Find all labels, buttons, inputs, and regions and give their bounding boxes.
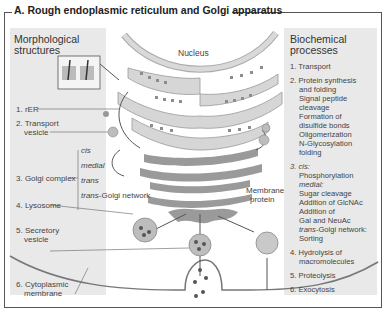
lysosome bbox=[133, 218, 157, 242]
label-trans-golgi-network: trans-Golgi network bbox=[81, 191, 150, 200]
golgi-trans bbox=[150, 180, 250, 193]
label-cis: cis bbox=[81, 146, 91, 155]
label-nucleus: Nucleus bbox=[178, 49, 209, 58]
secretory-vesicle bbox=[189, 234, 211, 256]
label-membrane-protein: Membrane bbox=[246, 186, 284, 195]
label-medial: medial bbox=[81, 161, 105, 170]
label-lysosome: 4. Lysosome bbox=[16, 201, 61, 210]
golgi-cis bbox=[144, 148, 258, 166]
biochem-heading-2: processes bbox=[290, 45, 338, 56]
golgi-medial bbox=[140, 164, 262, 182]
process-transport: 1. Transport bbox=[290, 63, 331, 72]
label-rer: 1. rER bbox=[16, 105, 39, 114]
membrane-protein-vesicle bbox=[256, 232, 278, 254]
trans-golgi-network bbox=[168, 209, 238, 223]
label-golgi-complex: 3. Golgi complex bbox=[16, 174, 76, 183]
label-secretory-vesicle: 5. Secretory bbox=[16, 226, 59, 235]
label-trans: trans bbox=[81, 176, 99, 185]
transport-vesicle bbox=[108, 127, 118, 137]
label-transport-vesicle: 2. Transport bbox=[16, 119, 59, 128]
morph-heading-2: structures bbox=[14, 45, 60, 56]
label-cytoplasmic-membrane: 6. Cytoplasmic bbox=[16, 280, 68, 289]
